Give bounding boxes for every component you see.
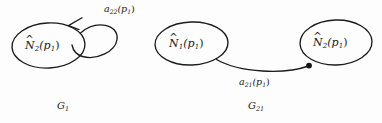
edge-label-a21: a21(p1) — [239, 77, 270, 88]
node-label-g1-n2: ^N2(p1) — [25, 40, 60, 52]
terminal-dot-a21 — [306, 63, 312, 69]
graph-figure: ^N2(p1) a22(p1) G1 ^N1(p1) ^N2(p1) a21(p… — [0, 0, 382, 123]
graph-caption-g1: G1 — [57, 101, 69, 112]
hat-accent-icon: ^ — [313, 32, 322, 42]
hat-accent-icon: ^ — [169, 33, 178, 43]
arrowhead-icon-a22 — [69, 18, 83, 30]
hat-accent-icon: ^ — [25, 35, 34, 45]
edge-label-a22: a22(p1) — [104, 4, 135, 15]
graph-caption-g21: G21 — [248, 101, 264, 112]
node-label-g21-n2: ^N2(p1) — [313, 37, 348, 49]
edge-path-a21 — [217, 60, 309, 72]
node-label-g21-n1: ^N1(p1) — [169, 38, 204, 50]
